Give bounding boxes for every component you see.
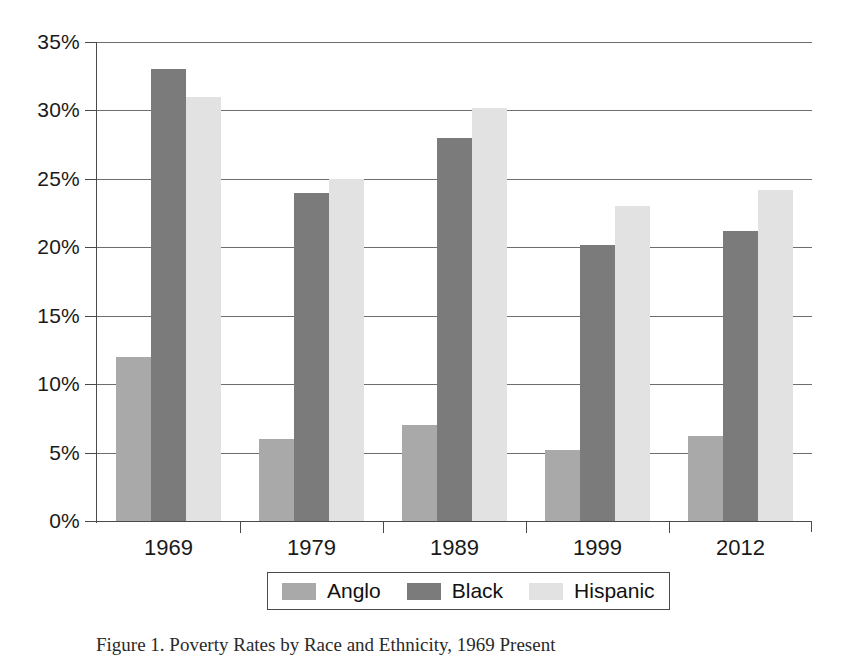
y-tick-0 [85,521,97,522]
bar-group-1999 [526,42,669,521]
legend-swatch-black [407,583,441,600]
y-tick-label-15: 15% [8,304,80,328]
bar-group-2012 [669,42,812,521]
legend-label-hispanic: Hispanic [574,579,655,603]
bar-hispanic-2012 [758,190,793,521]
legend-entry-black: Black [407,579,503,603]
figure-caption: Figure 1. Poverty Rates by Race and Ethn… [96,634,796,656]
bar-black-1979 [294,193,329,521]
x-tick-3 [526,521,527,533]
gridline-0 [97,521,812,522]
chart-legend: AngloBlackHispanic [267,572,670,610]
y-tick-10 [85,384,97,385]
y-tick-35 [85,42,97,43]
bar-anglo-1989 [402,425,437,521]
x-axis-end-tick [811,521,812,532]
bar-hispanic-1979 [329,179,364,521]
x-tick-2 [383,521,384,533]
y-tick-15 [85,316,97,317]
legend-swatch-anglo [282,583,316,600]
y-tick-20 [85,247,97,248]
bar-group-1979 [240,42,383,521]
bar-black-1989 [437,138,472,521]
x-tick-label-1999: 1999 [528,535,668,561]
bar-hispanic-1969 [186,97,221,521]
x-tick-label-1969: 1969 [99,535,239,561]
x-tick-4 [669,521,670,533]
x-tick-1 [240,521,241,533]
y-tick-label-0: 0% [8,509,80,533]
x-tick-label-1989: 1989 [385,535,525,561]
bar-anglo-1979 [259,439,294,521]
bar-group-1969 [97,42,240,521]
x-tick-label-1979: 1979 [242,535,382,561]
y-tick-label-20: 20% [8,235,80,259]
bar-hispanic-1989 [472,108,507,521]
bar-black-1969 [151,69,186,521]
y-tick-label-5: 5% [8,441,80,465]
legend-swatch-hispanic [529,583,563,600]
bar-hispanic-1999 [615,206,650,521]
legend-entry-anglo: Anglo [282,579,381,603]
y-tick-label-25: 25% [8,167,80,191]
bar-groups [97,42,812,521]
y-axis-labels: 0%5%10%15%20%25%30%35% [0,0,80,652]
bar-anglo-1969 [116,357,151,521]
bar-group-1989 [383,42,526,521]
bar-anglo-2012 [688,436,723,521]
y-tick-label-10: 10% [8,372,80,396]
y-tick-label-35: 35% [8,30,80,54]
bar-anglo-1999 [545,450,580,521]
y-tick-30 [85,110,97,111]
bar-black-2012 [723,231,758,521]
legend-label-anglo: Anglo [327,579,381,603]
legend-entry-hispanic: Hispanic [529,579,655,603]
y-tick-label-30: 30% [8,98,80,122]
y-tick-5 [85,453,97,454]
legend-label-black: Black [452,579,503,603]
y-tick-25 [85,179,97,180]
x-tick-label-2012: 2012 [671,535,811,561]
bar-black-1999 [580,245,615,521]
